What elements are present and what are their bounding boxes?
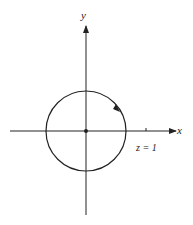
contour-diagram: y x z = 1: [0, 0, 193, 225]
diagram-canvas: [0, 0, 193, 225]
x-axis-label: x: [177, 125, 182, 136]
y-axis-label: y: [81, 10, 86, 21]
tick-label: z = 1: [136, 143, 157, 153]
origin-point: [84, 129, 88, 133]
